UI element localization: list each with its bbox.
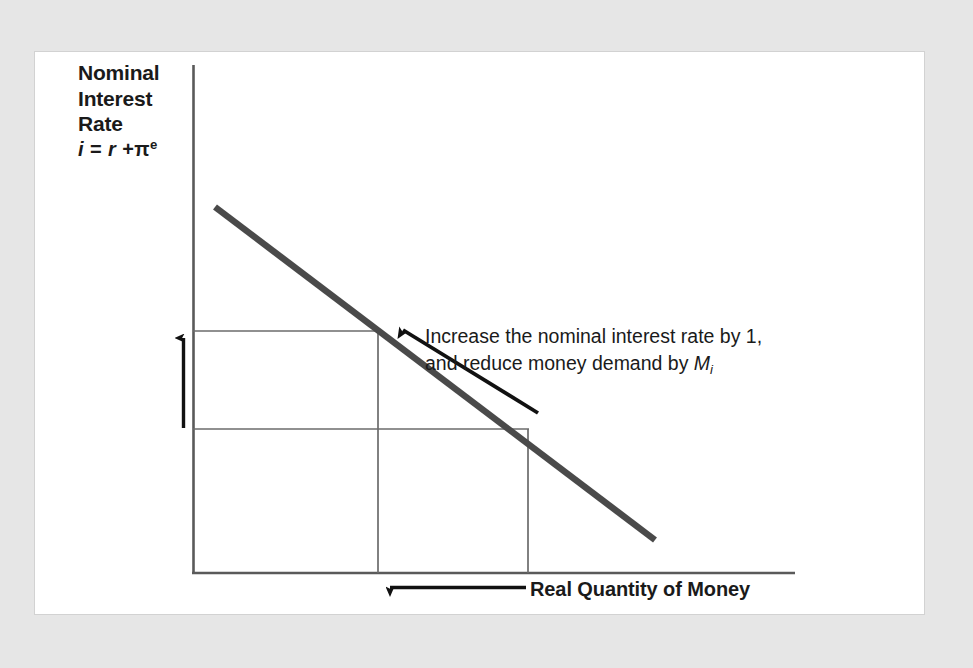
money-demand-variable: Mi (694, 352, 713, 374)
y-axis-formula-pi: π (134, 138, 150, 160)
y-axis-formula-i: i (78, 138, 84, 160)
y-axis-formula: i = r +πe (78, 137, 158, 161)
money-demand-variable-subscript: i (710, 362, 713, 377)
annotation-line-2-text: and reduce money demand by (425, 352, 694, 374)
money-demand-variable-symbol: M (694, 352, 710, 374)
annotation-line-2: and reduce money demand by Mi (425, 350, 865, 383)
annotation-text: Increase the nominal interest rate by 1,… (425, 323, 865, 383)
y-axis-title: Nominal Interest Rate (78, 60, 159, 137)
annotation-line-1: Increase the nominal interest rate by 1, (425, 323, 865, 350)
y-axis-formula-equals: = (90, 138, 102, 160)
figure-page: Nominal Interest Rate i = r +πe Real Qua… (0, 0, 973, 668)
y-axis-formula-r: r (108, 138, 116, 160)
y-axis-formula-plus: + (122, 138, 134, 160)
x-axis-title: Real Quantity of Money (530, 578, 750, 601)
y-axis-formula-pi-superscript: e (150, 137, 158, 152)
